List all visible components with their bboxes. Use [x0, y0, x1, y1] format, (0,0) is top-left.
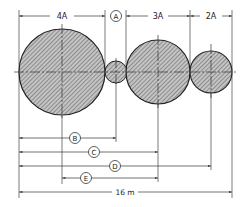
svg-text:D: D: [112, 163, 117, 171]
dimension-total: 16 m: [19, 188, 232, 197]
svg-text:A: A: [114, 13, 119, 21]
svg-text:B: B: [73, 135, 78, 143]
svg-text:E: E: [84, 175, 88, 183]
label-4a: 4A: [57, 12, 68, 21]
label-3a: 3A: [153, 12, 164, 21]
dimension-diagram: 4A A 3A 2A B C D E: [0, 0, 247, 207]
dimension-e: E: [62, 173, 158, 184]
dimension-c: C: [19, 147, 158, 158]
dimension-b: B: [19, 133, 116, 144]
label-2a: 2A: [206, 12, 217, 21]
svg-text:C: C: [92, 149, 97, 157]
dimension-d: D: [19, 161, 211, 172]
label-a-circled: A: [111, 11, 122, 22]
svg-text:16 m: 16 m: [115, 188, 134, 197]
